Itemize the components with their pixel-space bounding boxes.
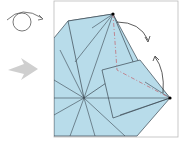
reference-point-right (168, 96, 171, 99)
origami-diagram (0, 0, 183, 142)
turn-over-icon (7, 12, 43, 31)
reference-point-top (111, 12, 114, 15)
step-arrow-icon (8, 58, 38, 80)
